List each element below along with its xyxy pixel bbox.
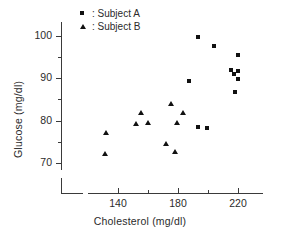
x-tick-160 xyxy=(148,190,149,193)
y-axis-spine xyxy=(61,22,62,170)
data-point-subject-b-8 xyxy=(172,149,178,154)
x-tick-140 xyxy=(118,188,119,193)
y-tick-80 xyxy=(56,121,61,122)
data-point-subject-b-1 xyxy=(168,101,174,106)
x-axis-title: Cholesterol (mg/dl) xyxy=(20,215,260,227)
legend-triangle-marker-icon xyxy=(80,24,86,29)
data-point-subject-a-6 xyxy=(236,77,240,81)
axis-corner-connector xyxy=(61,193,83,194)
y-tick-label-70: 70 xyxy=(20,156,52,168)
data-point-subject-a-1 xyxy=(212,44,216,48)
data-point-subject-a-4 xyxy=(236,69,240,73)
data-point-subject-a-9 xyxy=(196,125,200,129)
legend-separator-b: : xyxy=(92,21,95,32)
data-point-subject-b-7 xyxy=(163,141,169,146)
x-axis-spine xyxy=(88,193,263,194)
y-tick-label-100: 100 xyxy=(20,29,52,41)
y-tick-85 xyxy=(58,99,61,100)
legend-text-a: Subject A xyxy=(98,8,140,19)
y-tick-70 xyxy=(56,163,61,164)
data-point-subject-b-5 xyxy=(174,120,180,125)
legend-separator-a: : xyxy=(92,8,95,19)
data-point-subject-b-4 xyxy=(145,120,151,125)
y-tick-75 xyxy=(58,142,61,143)
y-tick-label-90: 90 xyxy=(20,71,52,83)
x-tick-label-180: 180 xyxy=(158,197,198,209)
legend-label-subject-a: : Subject A xyxy=(92,7,140,20)
data-point-subject-a-7 xyxy=(187,79,191,83)
data-point-subject-a-10 xyxy=(205,126,209,130)
x-tick-180 xyxy=(178,188,179,193)
x-tick-220 xyxy=(238,188,239,193)
data-point-subject-b-9 xyxy=(102,151,108,156)
y-axis-foot xyxy=(61,178,62,194)
x-tick-label-140: 140 xyxy=(98,197,138,209)
data-point-subject-a-5 xyxy=(232,72,236,76)
x-tick-label-220: 220 xyxy=(218,197,258,209)
scatter-plot: : Subject A : Subject B 7080901001401802… xyxy=(0,0,290,238)
legend-label-subject-b: : Subject B xyxy=(92,20,140,33)
y-axis-title: Glucose (mg/dl) xyxy=(12,81,24,158)
data-point-subject-b-2 xyxy=(180,110,186,115)
data-point-subject-b-0 xyxy=(138,110,144,115)
data-point-subject-a-2 xyxy=(236,53,240,57)
y-tick-90 xyxy=(56,78,61,79)
y-tick-95 xyxy=(58,57,61,58)
legend-square-marker-icon xyxy=(80,11,84,15)
data-point-subject-a-8 xyxy=(233,90,237,94)
legend-text-b: Subject B xyxy=(98,21,141,32)
data-point-subject-b-3 xyxy=(133,121,139,126)
data-point-subject-b-6 xyxy=(103,130,109,135)
x-tick-200 xyxy=(208,190,209,193)
y-tick-100 xyxy=(56,36,61,37)
y-tick-label-80: 80 xyxy=(20,114,52,126)
data-point-subject-a-0 xyxy=(196,35,200,39)
